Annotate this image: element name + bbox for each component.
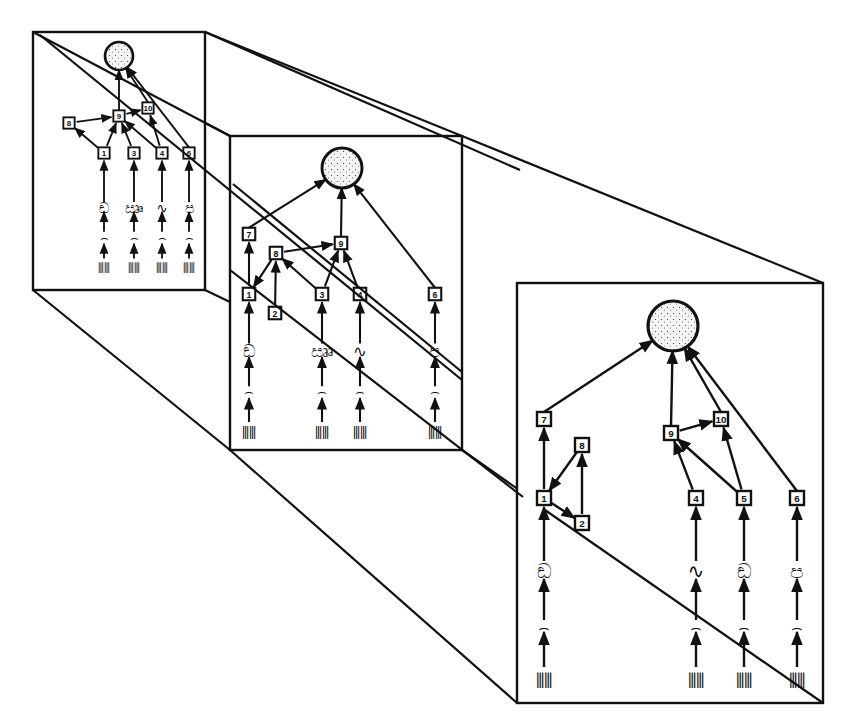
svg-text:8: 8 [274, 249, 279, 259]
node-10: 10 [142, 102, 153, 113]
node-9: 9 [664, 426, 678, 440]
node-6: 6 [429, 288, 442, 301]
svg-text:3: 3 [132, 149, 137, 158]
frame-middle: ⫴⫴⌢ඞ⫴⫴⌢ඎ⫴⫴⌢∿⫴⫴⌢ප78912346 [230, 136, 462, 450]
svg-text:9: 9 [117, 112, 122, 121]
perspective-network-diagram: ⫴⫴⌢ඞ⫴⫴⌢ඎ⫴⫴⌢∿⫴⫴⌢ප13468910⫴⫴⌢ඞ⫴⫴⌢ඎ⫴⫴⌢∿⫴⫴⌢ප… [0, 0, 849, 724]
svg-text:10: 10 [144, 104, 153, 113]
dna-helix-icon: ⫴⫴ [536, 669, 552, 693]
complex-circle [322, 148, 362, 188]
svg-text:10: 10 [716, 414, 727, 425]
diagram-canvas: ⫴⫴⌢ඞ⫴⫴⌢ඎ⫴⫴⌢∿⫴⫴⌢ප13468910⫴⫴⌢ඞ⫴⫴⌢ඎ⫴⫴⌢∿⫴⫴⌢ප… [0, 0, 849, 724]
dna-helix-icon: ⫴⫴ [688, 669, 704, 693]
svg-text:5: 5 [741, 493, 747, 504]
dna-helix-icon: ⫴⫴ [315, 424, 329, 443]
dna-helix-icon: ⫴⫴ [183, 260, 195, 276]
node-8: 8 [63, 117, 74, 128]
node-9: 9 [113, 110, 124, 121]
node-5: 5 [737, 491, 751, 505]
mrna-icon: ⌢ [130, 230, 139, 245]
dna-helix-icon: ⫴⫴ [128, 260, 140, 276]
svg-text:8: 8 [579, 440, 585, 451]
svg-text:6: 6 [433, 290, 438, 300]
frame-far: ⫴⫴⌢ඞ⫴⫴⌢ඎ⫴⫴⌢∿⫴⫴⌢ප13468910 [33, 32, 205, 290]
node-6: 6 [790, 491, 804, 505]
node-4: 4 [689, 491, 703, 505]
mrna-icon: ⌢ [158, 230, 167, 245]
dna-helix-icon: ⫴⫴ [98, 260, 110, 276]
svg-text:6: 6 [794, 493, 800, 504]
node-1: 1 [243, 288, 256, 301]
node-3: 3 [316, 288, 329, 301]
svg-text:4: 4 [160, 149, 165, 158]
protein-icon: ඎ [311, 342, 333, 361]
svg-text:9: 9 [668, 428, 674, 439]
node-8: 8 [270, 247, 283, 260]
svg-text:1: 1 [247, 290, 252, 300]
protein-icon: ඞ [737, 559, 752, 583]
svg-text:7: 7 [541, 414, 547, 425]
node-9: 9 [335, 237, 348, 250]
node-1: 1 [537, 491, 551, 505]
dna-helix-icon: ⫴⫴ [353, 424, 367, 443]
dna-helix-icon: ⫴⫴ [736, 669, 752, 693]
frame-near: ⫴⫴⌢ඞ⫴⫴⌢∿⫴⫴⌢ඞ⫴⫴⌢ප7891012456 [517, 283, 823, 703]
dna-helix-icon: ⫴⫴ [156, 260, 168, 276]
svg-text:1: 1 [102, 149, 107, 158]
protein-icon: ∿ [353, 342, 367, 361]
node-4: 4 [156, 147, 167, 158]
node-7: 7 [243, 228, 256, 241]
protein-icon: ප [790, 559, 804, 583]
svg-text:3: 3 [320, 290, 325, 300]
svg-text:4: 4 [693, 493, 699, 504]
protein-icon: ඞ [537, 559, 552, 583]
mrna-icon: ⌢ [100, 230, 109, 245]
svg-text:8: 8 [67, 119, 72, 128]
protein-icon: ඞ [243, 342, 256, 361]
node-1: 1 [98, 147, 109, 158]
svg-text:1: 1 [541, 493, 547, 504]
protein-icon: ∿ [688, 559, 705, 583]
svg-text:7: 7 [247, 230, 252, 240]
node-8: 8 [575, 438, 589, 452]
dna-helix-icon: ⫴⫴ [242, 424, 256, 443]
svg-text:2: 2 [579, 518, 585, 529]
complex-circle [648, 301, 698, 351]
svg-text:9: 9 [339, 239, 344, 249]
svg-text:2: 2 [273, 309, 278, 319]
complex-circle [105, 42, 133, 70]
node-7: 7 [537, 412, 551, 426]
node-2: 2 [575, 516, 589, 530]
frames-group: ⫴⫴⌢ඞ⫴⫴⌢ඎ⫴⫴⌢∿⫴⫴⌢ප13468910⫴⫴⌢ඞ⫴⫴⌢ඎ⫴⫴⌢∿⫴⫴⌢ප… [33, 32, 823, 703]
node-10: 10 [714, 412, 728, 426]
node-3: 3 [128, 147, 139, 158]
mrna-icon: ⌢ [185, 230, 194, 245]
